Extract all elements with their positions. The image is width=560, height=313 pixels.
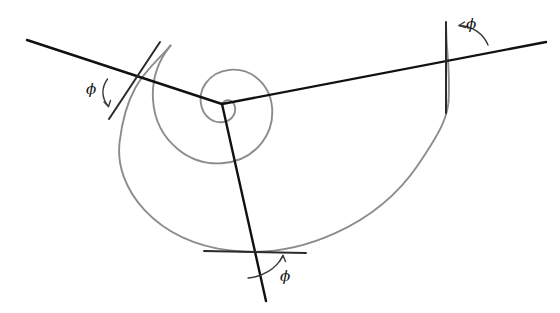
spiral-outer-sweep xyxy=(119,46,449,252)
figure-canvas: ϕϕϕ xyxy=(0,0,560,313)
ray-upper-right xyxy=(222,42,546,104)
phi-label-right: ϕ xyxy=(466,17,476,32)
phi-label-left: ϕ xyxy=(86,82,96,97)
angle-arc-right-arrowhead xyxy=(459,22,466,28)
ray-group xyxy=(27,40,546,301)
phi-label-bottom: ϕ xyxy=(280,269,290,284)
logarithmic-spiral xyxy=(153,46,272,164)
ray-lower xyxy=(222,104,266,301)
tangent-bottom xyxy=(204,251,306,253)
angle-arc-bottom-arrowhead xyxy=(280,256,286,262)
spiral-curve-group xyxy=(119,24,449,252)
angle-arc-bottom xyxy=(248,256,283,279)
